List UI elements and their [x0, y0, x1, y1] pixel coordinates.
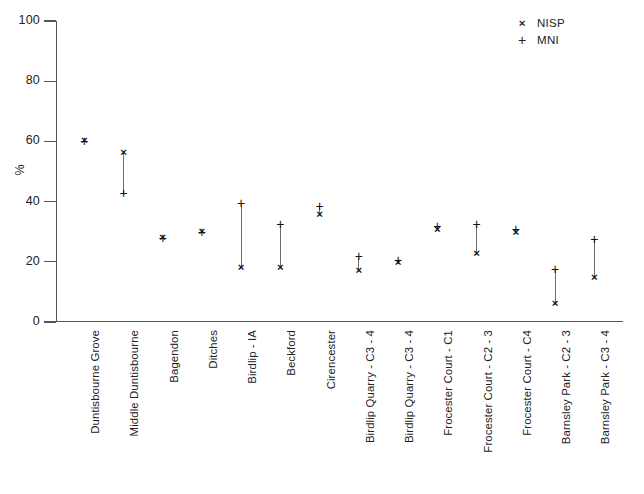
chart-legend: × NISP + MNI	[512, 14, 565, 48]
y-axis-title: %	[13, 164, 27, 175]
data-point-nisp: ×	[552, 298, 559, 310]
y-axis-tick-label: 60	[0, 133, 40, 147]
y-axis-tick	[44, 141, 56, 142]
x-axis-tick-label: Birdlip Quarry - C3 - 4	[364, 330, 376, 443]
data-point-mni: +	[551, 262, 559, 276]
y-axis-tick-label: 20	[0, 254, 40, 268]
data-point-nisp: ×	[591, 273, 598, 285]
data-point-nisp: ×	[473, 249, 480, 261]
y-axis-tick-label: 100	[0, 13, 40, 27]
y-axis-tick	[44, 261, 56, 262]
legend-item-nisp: × NISP	[512, 14, 565, 31]
y-axis-tick	[44, 201, 56, 202]
y-axis-tick-label: 0	[0, 314, 40, 328]
x-axis-tick-label: Frocester Court - C4	[521, 330, 533, 436]
x-axis-tick-label: Bagendon	[168, 330, 180, 383]
x-axis-tick-label: Birdlip Quarry - C3 - 4	[403, 330, 415, 443]
data-point-mni: +	[119, 186, 127, 200]
data-point-nisp: ×	[81, 136, 88, 148]
x-axis-tick-label: Frocester Court - C2 - 3	[482, 330, 494, 453]
data-point-mni: +	[590, 232, 598, 246]
data-point-nisp: ×	[199, 226, 206, 238]
x-axis-tick-label: Birdlip - IA	[246, 330, 258, 384]
y-axis-tick-label: 40	[0, 194, 40, 208]
chart-root: % 020406080100 +×+×+×+×+×+×+×+×+×+×+×+×+…	[0, 0, 644, 494]
data-point-nisp: ×	[513, 227, 520, 239]
y-axis-tick	[44, 81, 56, 82]
data-point-nisp: ×	[395, 258, 402, 270]
y-axis-tick	[44, 20, 56, 21]
data-point-nisp: ×	[277, 262, 284, 274]
data-point-nisp: ×	[120, 148, 127, 160]
x-marker-icon: ×	[512, 17, 532, 29]
range-connector	[241, 203, 242, 268]
data-point-mni: +	[355, 249, 363, 263]
x-axis-tick-label: Middle Duntisbourne	[128, 330, 140, 436]
data-point-nisp: ×	[434, 224, 441, 236]
plot-area	[56, 21, 623, 322]
legend-label-nisp: NISP	[537, 17, 565, 29]
x-axis-tick-label: Cirencester	[325, 330, 337, 389]
x-axis-tick-label: Beckford	[285, 330, 297, 376]
legend-item-mni: + MNI	[512, 31, 565, 48]
y-axis-tick	[44, 321, 56, 322]
x-axis-tick-label: Duntisbourne Grove	[89, 330, 101, 434]
data-point-nisp: ×	[159, 232, 166, 244]
plus-marker-icon: +	[512, 32, 532, 48]
x-axis-tick-label: Barnsley Park - C2 - 3	[560, 330, 572, 444]
data-point-mni: +	[276, 217, 284, 231]
y-axis-tick-label: 80	[0, 73, 40, 87]
data-point-mni: +	[237, 196, 245, 210]
data-point-mni: +	[473, 217, 481, 231]
x-axis-tick-label: Frocester Court - C1	[442, 330, 454, 436]
x-axis-tick-label: Ditches	[207, 330, 219, 369]
x-axis-tick-label: Barnsley Park - C3 - 4	[599, 330, 611, 444]
data-point-nisp: ×	[356, 265, 363, 277]
data-point-nisp: ×	[316, 209, 323, 221]
data-point-nisp: ×	[238, 262, 245, 274]
legend-label-mni: MNI	[537, 34, 559, 46]
